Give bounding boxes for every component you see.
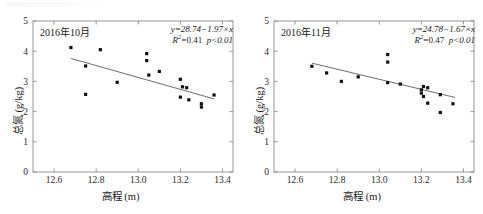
data-point <box>310 65 313 68</box>
data-point <box>179 78 182 81</box>
x-tick-label: 13.4 <box>214 175 231 185</box>
data-point <box>116 81 119 84</box>
x-axis-title-november: 高程 (m) <box>241 192 483 203</box>
data-point <box>422 95 425 98</box>
data-point <box>158 70 161 73</box>
stats-text-october: R2=0.41 p<0.01 <box>171 34 233 45</box>
data-point <box>386 53 389 56</box>
data-point <box>145 52 148 55</box>
y-tick-label: 4 <box>264 47 269 57</box>
y-tick-label: 5 <box>23 16 28 26</box>
y-tick-label: 1 <box>23 137 28 147</box>
data-point <box>439 93 442 96</box>
x-axis-title-october: 高程 (m) <box>0 192 241 203</box>
p-value-november: p<0.01 <box>449 35 475 45</box>
data-point <box>426 102 429 105</box>
y-tick-label: 3 <box>23 77 28 87</box>
data-point <box>451 102 454 105</box>
y-tick-label: 1 <box>264 137 269 147</box>
data-point <box>84 93 87 96</box>
x-tick-label: 13.2 <box>413 175 430 185</box>
data-point <box>179 96 182 99</box>
y-tick-label: 3 <box>264 77 269 87</box>
p-value-october: p<0.01 <box>207 35 233 45</box>
y-axis-title-october: 总氮 (g/kg) <box>14 87 25 135</box>
data-point <box>357 75 360 78</box>
y-tick-label: 4 <box>23 47 28 57</box>
data-point <box>212 93 215 96</box>
data-point <box>420 88 423 91</box>
data-point <box>200 102 203 105</box>
data-point <box>422 85 425 88</box>
x-tick-label: 12.8 <box>88 175 105 185</box>
regression-annotation-october: y=28.74−1.97×x R2=0.41 p<0.01 <box>171 25 233 45</box>
data-point <box>439 111 442 114</box>
y-tick-label: 0 <box>23 167 28 177</box>
panel-label-october: 2016年10月 <box>40 28 90 38</box>
x-tick-label: 12.8 <box>329 175 346 185</box>
x-tick-label: 13.0 <box>371 175 388 185</box>
data-point <box>187 98 190 101</box>
data-point <box>185 86 188 89</box>
two-panel-scatter-figure: 12.612.813.013.213.4012345 2016年10月 y=28… <box>0 0 483 214</box>
y-tick-label: 0 <box>264 167 269 177</box>
data-point <box>386 81 389 84</box>
stats-text-november: R2=0.47 p<0.01 <box>413 34 475 45</box>
data-point <box>145 59 148 62</box>
r-squared-value: =0.41 <box>181 35 202 45</box>
x-tick-label: 13.4 <box>455 175 472 185</box>
panel-november: 12.612.813.013.213.4012345 2016年11月 y=24… <box>241 0 483 214</box>
data-point <box>69 46 72 49</box>
regression-line <box>312 63 455 97</box>
data-point <box>386 60 389 63</box>
regression-line <box>71 58 214 98</box>
data-point <box>84 64 87 67</box>
data-point <box>325 71 328 74</box>
data-point <box>99 48 102 51</box>
data-point <box>399 83 402 86</box>
y-tick-label: 5 <box>264 16 269 26</box>
data-point <box>420 92 423 95</box>
panel-october: 12.612.813.013.213.4012345 2016年10月 y=28… <box>0 0 241 214</box>
r-squared-value: =0.47 <box>423 35 444 45</box>
data-point <box>147 73 150 76</box>
x-tick-label: 12.6 <box>46 175 63 185</box>
data-point <box>426 86 429 89</box>
data-point <box>181 85 184 88</box>
regression-annotation-november: y=24.78−1.67×x R2=0.47 p<0.01 <box>413 25 475 45</box>
panel-label-november: 2016年11月 <box>281 28 331 38</box>
x-tick-label: 13.2 <box>172 175 189 185</box>
y-axis-title-november: 总氮 (g/kg) <box>255 87 266 135</box>
data-point <box>200 105 203 108</box>
x-tick-label: 13.0 <box>130 175 147 185</box>
data-point <box>340 80 343 83</box>
x-tick-label: 12.6 <box>287 175 304 185</box>
